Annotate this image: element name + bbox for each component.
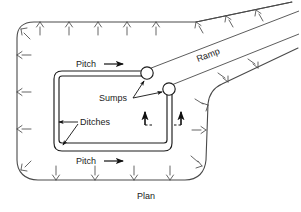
sumps-leader-upper bbox=[133, 81, 144, 98]
ditches-label: Ditches bbox=[80, 117, 111, 127]
sump-lower bbox=[163, 83, 175, 95]
section-markers bbox=[145, 112, 181, 125]
pitch-bottom-label: Pitch bbox=[76, 156, 96, 166]
ditches-annotation: Ditches bbox=[59, 117, 111, 145]
pitch-top-label: Pitch bbox=[76, 59, 96, 69]
ramp-label: Ramp bbox=[195, 46, 221, 64]
pitch-bottom-annotation: Pitch bbox=[76, 156, 123, 166]
plan-drawing-canvas: Pitch Pitch Sumps Ditches Ramp Plan bbox=[0, 0, 301, 212]
pitch-top-annotation: Pitch bbox=[76, 59, 123, 69]
hatch-right bbox=[191, 99, 208, 168]
ditches-leader-bottom bbox=[63, 124, 78, 145]
sump-upper bbox=[141, 67, 153, 79]
sumps-leader-lower bbox=[133, 92, 162, 98]
hatch-ramp-top bbox=[195, 10, 263, 33]
plan-diagram: Pitch Pitch Sumps Ditches Ramp Plan bbox=[0, 0, 301, 212]
hatch-left bbox=[17, 52, 31, 133]
section-marker-right bbox=[174, 112, 181, 125]
sumps-annotation: Sumps bbox=[99, 81, 162, 103]
section-marker-left bbox=[145, 112, 152, 125]
hatch-ramp-bottom bbox=[218, 59, 258, 82]
sumps-label: Sumps bbox=[99, 93, 128, 103]
hatch-bottom bbox=[53, 166, 174, 180]
hatch-top bbox=[37, 22, 160, 35]
hatch-corner-tl bbox=[21, 28, 30, 39]
ramp-edges bbox=[146, 2, 299, 88]
ditch-channel bbox=[54, 71, 172, 151]
plan-caption: Plan bbox=[137, 191, 155, 201]
hatch-corner-bl bbox=[21, 161, 31, 171]
sumps bbox=[141, 67, 175, 95]
